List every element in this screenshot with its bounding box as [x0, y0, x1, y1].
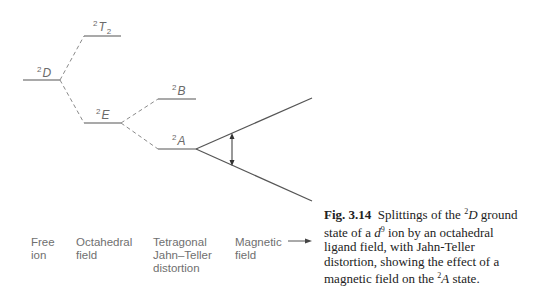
stage-free-ion: Free ion	[31, 236, 55, 262]
magnetic-field-arrow-icon	[288, 239, 312, 244]
label-2T2: 2T2	[93, 20, 111, 36]
zeeman-lower	[196, 149, 312, 201]
stage-octahedral-field: Octahedral field	[76, 236, 132, 262]
stage-magnetic-field: Magnetic field	[235, 236, 282, 262]
label-2D: 2D	[37, 66, 51, 79]
label-2B: 2B	[172, 84, 185, 97]
figure-caption: Fig. 3.14 Splittings of the 2D ground st…	[324, 205, 524, 287]
figure-label: Fig. 3.14	[324, 207, 371, 222]
correlation-2D-2E	[60, 80, 84, 123]
label-2E: 2E	[96, 108, 109, 121]
correlation-2D-2T2	[60, 36, 84, 80]
label-2A: 2A	[172, 134, 185, 147]
splitting-double-arrow	[230, 133, 235, 166]
correlation-2E-2B	[121, 99, 158, 123]
stage-tetragonal-distortion: Tetragonal Jahn–Teller distortion	[153, 236, 212, 275]
zeeman-upper	[196, 98, 312, 149]
correlation-2E-2A	[121, 123, 158, 149]
